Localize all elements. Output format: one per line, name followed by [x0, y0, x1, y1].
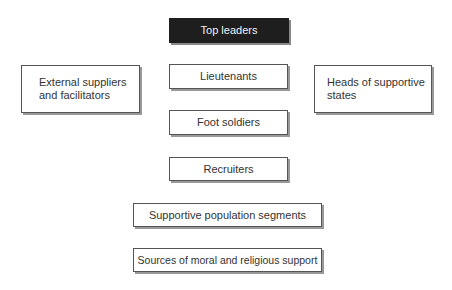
- node-top-leaders: Top leaders: [169, 18, 289, 43]
- node-recruiters: Recruiters: [169, 157, 288, 181]
- node-label: Foot soldiers: [197, 116, 260, 129]
- node-foot-soldiers: Foot soldiers: [169, 110, 288, 135]
- node-supportive-population-segments: Supportive population segments: [133, 203, 322, 227]
- node-external-suppliers: External suppliers and facilitators: [21, 65, 140, 113]
- node-label: Sources of moral and religious support: [138, 254, 318, 267]
- node-moral-religious-support: Sources of moral and religious support: [133, 248, 322, 272]
- node-label: Heads of supportive states: [327, 76, 425, 102]
- node-label: External suppliers and facilitators: [39, 76, 126, 102]
- node-label: Supportive population segments: [149, 209, 306, 222]
- node-label: Recruiters: [203, 163, 253, 176]
- node-heads-of-supportive-states: Heads of supportive states: [314, 65, 432, 113]
- node-lieutenants: Lieutenants: [169, 64, 288, 89]
- node-label: Top leaders: [201, 24, 258, 37]
- node-label: Lieutenants: [200, 70, 257, 83]
